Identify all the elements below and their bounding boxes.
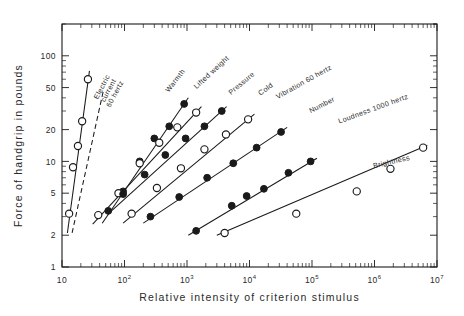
data-point (69, 164, 76, 171)
curve-label-warmth: Warmth (163, 67, 187, 94)
x-tick-label-1: 102 (117, 274, 131, 285)
data-point (285, 169, 292, 176)
y-tick-label-5: 50 (46, 83, 56, 93)
y-axis-title: Force of handgrip in pounds (12, 64, 24, 227)
data-point (293, 210, 300, 217)
data-point (66, 210, 73, 217)
y-tick-label-6: 100 (41, 51, 56, 61)
data-point (201, 123, 208, 130)
data-point (243, 193, 250, 200)
axis-ticks (62, 24, 437, 267)
curve-loudness-1000-hertz (188, 158, 317, 235)
data-points (66, 76, 427, 237)
curve-label-vibration-60-hertz: Vibration 60 hertz (274, 63, 333, 101)
x-tick-label-5: 106 (367, 274, 381, 285)
data-point (105, 207, 112, 214)
data-point (141, 171, 148, 178)
data-point (153, 184, 160, 191)
data-point (182, 135, 189, 142)
curve-label-number: Number (307, 94, 336, 115)
x-tick-label-0: 10 (57, 275, 67, 285)
chart-root: Electriccurrent60 hertzWarmthLifted weig… (0, 0, 464, 316)
data-point (353, 188, 360, 195)
data-point (181, 101, 188, 108)
data-point (156, 139, 163, 146)
data-point (136, 160, 143, 167)
curve-number (143, 127, 287, 223)
y-tick-label-2: 5 (51, 188, 56, 198)
data-point (74, 142, 81, 149)
data-point (261, 185, 268, 192)
x-tick-label-6: 107 (430, 274, 444, 285)
curve-label-cold: Cold (256, 81, 274, 98)
data-point (228, 202, 235, 209)
data-point (79, 118, 86, 125)
curve-labels: Electriccurrent60 hertzWarmthLifted weig… (91, 54, 411, 171)
data-point (218, 108, 225, 115)
curve-label-loudness-1000-hertz: Loudness 1000 hertz (337, 92, 409, 126)
curve-pressure (93, 107, 202, 224)
y-tick-label-3: 10 (46, 157, 56, 167)
curve-label-lifted-weight: Lifted weight (192, 54, 231, 91)
data-point (128, 210, 135, 217)
data-point (174, 124, 181, 131)
data-point (253, 144, 260, 151)
data-point (221, 229, 228, 236)
plot-border (62, 24, 437, 267)
y-tick-label-0: 1 (51, 262, 56, 272)
data-point (230, 160, 237, 167)
y-tick-label-1: 2 (51, 230, 56, 240)
data-point (193, 227, 200, 234)
curve-electric-current-60-hertz (67, 71, 89, 233)
data-point (162, 152, 169, 159)
curve-cold (112, 107, 227, 211)
data-curves (67, 71, 427, 235)
data-point (278, 129, 285, 136)
data-point (245, 116, 252, 123)
data-point (176, 194, 183, 201)
data-point (201, 146, 208, 153)
data-point (177, 165, 184, 172)
data-point (84, 76, 91, 83)
data-point (166, 123, 173, 130)
curve-label-pressure: Pressure (226, 69, 256, 96)
x-tick-label-2: 103 (180, 274, 194, 285)
curve-label-electric-current-60-hertz: Electriccurrent60 hertz (91, 72, 126, 109)
x-axis-title: Relative intensity of criterion stimulus (139, 291, 360, 303)
cross-modality-matching-chart: Electriccurrent60 hertzWarmthLifted weig… (0, 0, 464, 316)
data-point (95, 212, 102, 219)
data-point (307, 158, 314, 165)
data-point (420, 144, 427, 151)
data-point (193, 109, 200, 116)
x-tick-label-4: 105 (305, 274, 319, 285)
x-tick-label-3: 104 (242, 274, 256, 285)
data-point (222, 131, 229, 138)
y-tick-label-4: 20 (46, 125, 56, 135)
plot-frame (62, 24, 437, 267)
data-point (147, 213, 154, 220)
data-point (204, 174, 211, 181)
data-point (120, 191, 127, 198)
